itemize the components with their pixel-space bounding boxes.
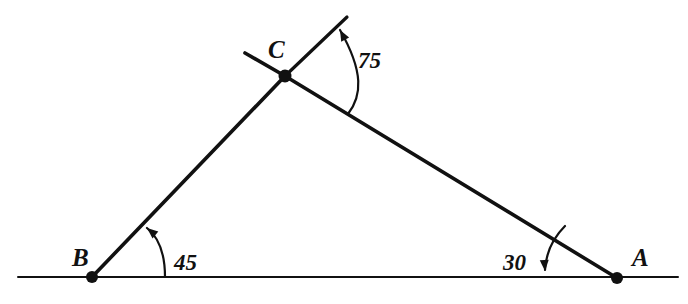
arrowhead-75-at-c	[336, 28, 349, 42]
arc-30-at-a	[545, 226, 565, 270]
angle-label-45: 45	[173, 250, 197, 275]
angle-label-75: 75	[358, 48, 381, 73]
segment-bc	[92, 76, 285, 277]
diagram-canvas: B C A 45 75 30	[0, 0, 688, 304]
vertex-label-c: C	[268, 36, 285, 63]
arc-75-at-c	[340, 30, 358, 114]
arrowhead-30-at-a	[540, 260, 550, 272]
vertex-label-a: A	[630, 244, 649, 271]
vertex-dot-c	[279, 70, 292, 83]
vertex-dot-a	[611, 272, 623, 284]
arrowhead-45-at-b	[144, 225, 158, 239]
segment-ca	[285, 76, 617, 278]
ray-from-c	[285, 17, 347, 76]
arc-45-at-b	[147, 228, 165, 277]
vertex-label-b: B	[71, 244, 89, 271]
vertex-dot-b	[86, 271, 98, 283]
angle-label-30: 30	[502, 250, 527, 275]
geometry-diagram: B C A 45 75 30	[0, 0, 688, 304]
